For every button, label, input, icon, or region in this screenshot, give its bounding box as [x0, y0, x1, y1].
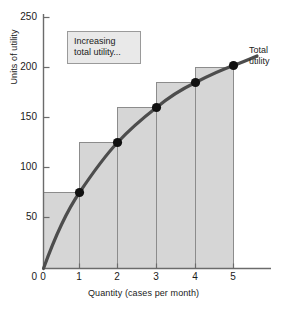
x-tick-label-5: 5: [226, 271, 240, 282]
annotation-line-1: Increasing: [74, 36, 135, 47]
data-point-4: [191, 78, 200, 87]
annotation-line-2: total utility...: [74, 47, 135, 58]
x-tick-label-2: 2: [110, 271, 124, 282]
data-point-3: [152, 103, 161, 112]
x-tick-label-1: 1: [72, 271, 86, 282]
total-utility-chart: 250 200 150 100 50 0 0 1 2 3 4 5 Units o…: [0, 0, 284, 309]
y-axis-ticks: [44, 18, 50, 218]
data-point-2: [113, 138, 122, 147]
total-utility-series-label: Total utility: [249, 45, 270, 67]
series-label-line-1: Total: [249, 45, 270, 56]
chart-canvas: [0, 0, 284, 309]
bar-3-4: [157, 83, 196, 269]
x-tick-label-4: 4: [188, 271, 202, 282]
bar-2-3: [118, 108, 157, 269]
y-tick-label-0: 0: [11, 271, 37, 282]
x-tick-label-3: 3: [149, 271, 163, 282]
bar-1-2: [80, 143, 118, 269]
utility-bars: [44, 68, 234, 269]
bar-4-5: [196, 68, 234, 269]
y-tick-label-50: 50: [11, 211, 37, 222]
data-point-5: [229, 61, 238, 70]
increasing-total-utility-annotation: Increasing total utility...: [67, 31, 141, 64]
series-label-line-2: utility: [249, 56, 270, 67]
x-axis-title: Quantity (cases per month): [88, 288, 199, 298]
y-tick-label-100: 100: [11, 161, 37, 172]
x-tick-label-0: 0: [36, 271, 50, 282]
data-point-1: [75, 188, 84, 197]
y-axis-title: Units of utility: [9, 17, 19, 97]
y-tick-label-150: 150: [11, 111, 37, 122]
